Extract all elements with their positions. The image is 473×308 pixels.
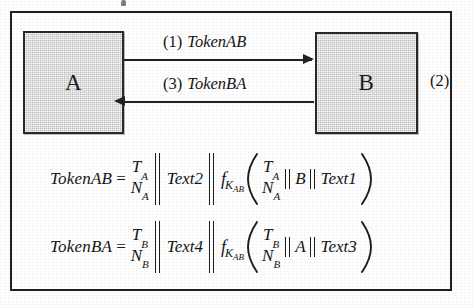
scan-speck-artifact (121, 0, 126, 6)
stack-outer-top-sub: B (141, 238, 148, 250)
stack-outer-bottom-row: NB (131, 247, 149, 268)
mac-function-token-ba: fKAB (219, 237, 246, 258)
concat-separator-icon (309, 169, 317, 189)
concat-separator-icon (154, 153, 162, 205)
arrowhead-left-icon (114, 96, 125, 106)
stack-inner-bottom-sub: A (273, 190, 280, 202)
figure-outer-frame: A B (1)TokenAB (3)TokenBA (2) TokenAB = … (10, 11, 452, 291)
message-arrow-b-to-a (125, 101, 314, 103)
figure-annotation-2: (2) (430, 71, 449, 91)
stack-inner-bottom-row: NA (262, 179, 280, 200)
message-label-1: (1)TokenAB (163, 32, 246, 52)
message-arrow-a-to-b (124, 59, 312, 61)
message-name-3: TokenBA (182, 74, 246, 93)
equation-lhs-token-ab: TokenAB (50, 169, 112, 189)
mac-argument-token-ba: TB NB A Text3 (259, 226, 360, 267)
text-field-outer-token-ba: Text4 (165, 237, 205, 257)
mac-key-sub: AB (233, 252, 244, 262)
stack-outer-bottom-sub: A (142, 190, 149, 202)
stack-outer-top: T (132, 225, 141, 244)
stack-outer-top-row: TA (132, 158, 148, 179)
stack-outer-bottom-row: NA (131, 179, 149, 200)
stack-inner-bottom-row: NB (262, 247, 280, 268)
token-ab-body: TA NA Text2 fKAB TA NA B Text1 (129, 153, 373, 205)
message-name-1: TokenAB (182, 32, 246, 51)
stack-outer-token-ba: TB NB (129, 226, 151, 267)
arrowhead-right-icon (303, 54, 314, 64)
token-ba-body: TB NB Text4 fKAB TB NB A Text3 (129, 221, 373, 273)
mac-key-symbol: K (225, 178, 233, 192)
stack-outer-bottom-sub: B (142, 258, 149, 270)
equation-token-ba: TokenBA = TB NB Text4 fKAB TB NB (50, 221, 373, 273)
stack-inner-bottom-sub: B (273, 258, 280, 270)
concat-separator-icon (284, 237, 292, 257)
text-field-inner-token-ba: Text3 (319, 237, 359, 257)
stack-inner-top-sub: B (272, 238, 279, 250)
stack-inner-top-row: TB (263, 226, 279, 247)
stack-outer-token-ab: TA NA (129, 158, 151, 199)
equals-sign: = (112, 169, 129, 189)
identity-token-ab: B (294, 169, 306, 189)
stack-outer-top-row: TB (132, 226, 148, 247)
mac-argument-token-ab: TA NA B Text1 (259, 158, 360, 199)
paren-left-icon (246, 153, 259, 205)
stack-inner-token-ab: TA NA (260, 158, 282, 199)
equation-token-ab: TokenAB = TA NA Text2 fKAB TA NA (50, 153, 373, 205)
text-field-inner-token-ab: Text1 (319, 169, 359, 189)
mac-key-sub: AB (233, 184, 244, 194)
mac-key-symbol: K (225, 246, 233, 260)
message-label-3: (3)TokenBA (163, 74, 246, 94)
stack-inner-top-row: TA (263, 158, 279, 179)
stack-outer-top-sub: A (141, 170, 148, 182)
entity-box-b: B (315, 32, 418, 134)
mac-function-token-ab: fKAB (219, 169, 246, 190)
concat-separator-icon (208, 221, 216, 273)
concat-separator-icon (309, 237, 317, 257)
identity-token-ba: A (294, 237, 306, 257)
concat-separator-icon (208, 153, 216, 205)
concat-separator-icon (284, 169, 292, 189)
paren-left-icon (246, 221, 259, 273)
entity-label-b: B (359, 70, 375, 96)
text-field-outer-token-ab: Text2 (165, 169, 205, 189)
paren-right-icon (360, 153, 373, 205)
equation-lhs-token-ba: TokenBA (50, 237, 112, 257)
entity-box-a: A (23, 31, 124, 134)
message-step-1: (1) (163, 32, 182, 51)
mac-key-subscript: KAB (225, 178, 244, 192)
equals-sign: = (112, 237, 129, 257)
mac-key-subscript: KAB (225, 246, 244, 260)
paren-right-icon (360, 221, 373, 273)
concat-separator-icon (154, 221, 162, 273)
stack-inner-top-sub: A (272, 170, 279, 182)
stack-inner-token-ba: TB NB (260, 226, 282, 267)
entity-label-a: A (65, 70, 82, 96)
stack-outer-top: T (132, 157, 141, 176)
message-step-3: (3) (163, 74, 182, 93)
